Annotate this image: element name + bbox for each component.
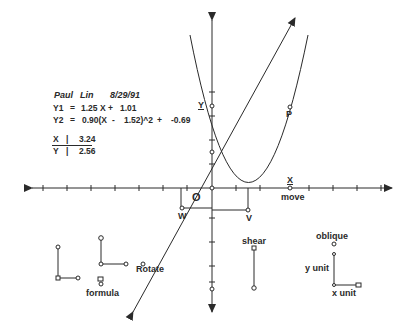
intercept-point (210, 150, 214, 154)
formula-label[interactable]: formula (86, 289, 119, 298)
shear-label[interactable]: shear (242, 237, 266, 246)
formula-axis-left (58, 247, 78, 278)
formula-handle-square (98, 277, 103, 281)
author-last-name: Lin (80, 91, 94, 100)
readout-y-separator: | (66, 147, 68, 156)
point-w-handle (180, 206, 184, 210)
formula-handle-b-origin (99, 262, 103, 266)
oblique-origin-handle (333, 284, 336, 287)
y2-constant[interactable]: -0.69 (171, 116, 190, 125)
formula-handle-b-top (99, 236, 104, 241)
formula-handle-circle (99, 282, 103, 286)
x-unit-label[interactable]: x unit (332, 289, 356, 298)
readout-y-label: Y (53, 147, 59, 156)
y1-equals: = (70, 104, 75, 113)
vertex-guide (212, 188, 248, 210)
rotate-label[interactable]: Rotate (136, 265, 164, 274)
author-first-name: Paul (54, 91, 73, 100)
x-axis-label: X (287, 176, 293, 185)
shear-handle-bottom (252, 286, 256, 290)
y-axis-point-handle (210, 104, 214, 108)
oblique-handle (332, 242, 336, 246)
readout-y-value: 2.56 (79, 147, 96, 156)
y2-shift[interactable]: 1.52)^2 (124, 116, 153, 125)
formula-handle-b-right (124, 262, 128, 266)
origin-point (210, 186, 214, 190)
move-label[interactable]: move (281, 193, 305, 202)
readout-x-label: X (53, 135, 59, 144)
y1-plus: + (108, 104, 113, 113)
point-v-label: V (246, 214, 252, 223)
formula-axis-right (101, 237, 126, 264)
y-axis-label: Y (198, 101, 204, 110)
y2-name: Y2 (53, 116, 63, 125)
y2-minus: - (112, 116, 115, 125)
readout-x-separator: | (66, 135, 68, 144)
y1-expression[interactable]: 1.25 X (81, 104, 106, 113)
oblique-label[interactable]: oblique (316, 232, 348, 241)
y2-expression[interactable]: 0.90(X (82, 116, 107, 125)
y-axis-bottom-handle (210, 287, 214, 291)
y2-equals: = (70, 116, 75, 125)
y1-name: Y1 (53, 104, 63, 113)
oblique-axes (334, 254, 358, 285)
point-p-label: P (286, 110, 292, 119)
y-unit-label[interactable]: y unit (305, 264, 329, 273)
date-label: 8/29/91 (110, 91, 140, 100)
x-unit-handle (356, 283, 361, 287)
formula-handle-a-top (56, 245, 60, 249)
formula-handle-a-origin (56, 276, 60, 280)
point-v-handle (246, 208, 250, 212)
move-handle (288, 186, 292, 190)
y2-plus: + (157, 116, 162, 125)
shear-handle-top (252, 246, 256, 250)
graph-canvas (0, 0, 419, 333)
readout-x-value: 3.24 (79, 135, 96, 144)
point-w-label: W (178, 212, 187, 221)
y1-constant[interactable]: 1.01 (120, 104, 137, 113)
formula-handle-a-right (76, 276, 80, 280)
origin-label: O (192, 192, 201, 203)
y-unit-handle (333, 253, 336, 256)
